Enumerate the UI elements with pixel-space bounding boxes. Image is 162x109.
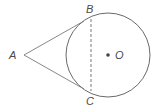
label-b: B [86,3,93,15]
label-c: C [86,95,94,107]
tangent-segment-ac [24,55,84,89]
center-point-o [106,53,110,57]
label-o: O [115,49,124,61]
label-a: A [8,49,16,61]
geometry-diagram: A B C O [0,0,162,109]
tangent-segment-ab [24,21,84,55]
